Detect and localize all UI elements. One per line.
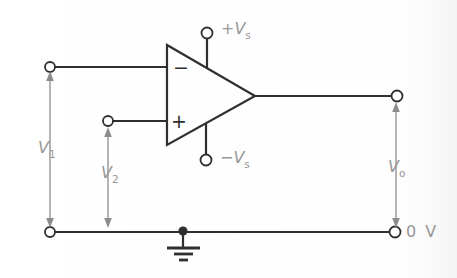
minus-sign: − bbox=[220, 148, 233, 167]
inverting-input-sign: − bbox=[173, 58, 189, 77]
supply-neg-sub: s bbox=[244, 158, 249, 170]
v2-arrowhead-down bbox=[104, 218, 112, 228]
vo-arrowhead-up bbox=[392, 102, 400, 112]
plus-sign: + bbox=[221, 19, 234, 38]
opamp-circuit-diagram: − + +Vs −Vs V1 V2 Vo 0 V bbox=[0, 0, 457, 278]
v2-sub: 2 bbox=[112, 173, 119, 185]
output-terminal bbox=[392, 91, 403, 102]
supply-neg-base: V bbox=[233, 148, 244, 167]
supply-pos-base: V bbox=[234, 19, 245, 38]
negative-supply-label: −Vs bbox=[220, 150, 250, 169]
v2-label: V2 bbox=[101, 165, 119, 184]
v1-base: V bbox=[38, 138, 49, 157]
supply-pos-sub: s bbox=[245, 29, 250, 41]
v1-sub: 1 bbox=[49, 148, 56, 160]
vo-base: V bbox=[388, 157, 399, 176]
circuit-svg bbox=[0, 0, 457, 278]
v2-base: V bbox=[101, 163, 112, 182]
vo-label: Vo bbox=[388, 159, 405, 178]
vo-sub: o bbox=[399, 167, 405, 179]
v1-arrowhead-down bbox=[46, 218, 54, 228]
positive-supply-label: +Vs bbox=[221, 21, 251, 40]
zero-volt-label: 0 V bbox=[406, 224, 438, 240]
v2-arrowhead-up bbox=[104, 127, 112, 137]
ground-left-terminal bbox=[45, 227, 55, 237]
v1-label: V1 bbox=[38, 140, 56, 159]
input2-terminal bbox=[103, 116, 113, 126]
ground-right-terminal bbox=[390, 227, 401, 238]
positive-supply-terminal bbox=[202, 28, 213, 39]
input1-terminal bbox=[45, 62, 55, 72]
negative-supply-terminal bbox=[201, 155, 212, 166]
v1-arrowhead-up bbox=[46, 71, 54, 81]
noninverting-input-sign: + bbox=[171, 112, 187, 131]
